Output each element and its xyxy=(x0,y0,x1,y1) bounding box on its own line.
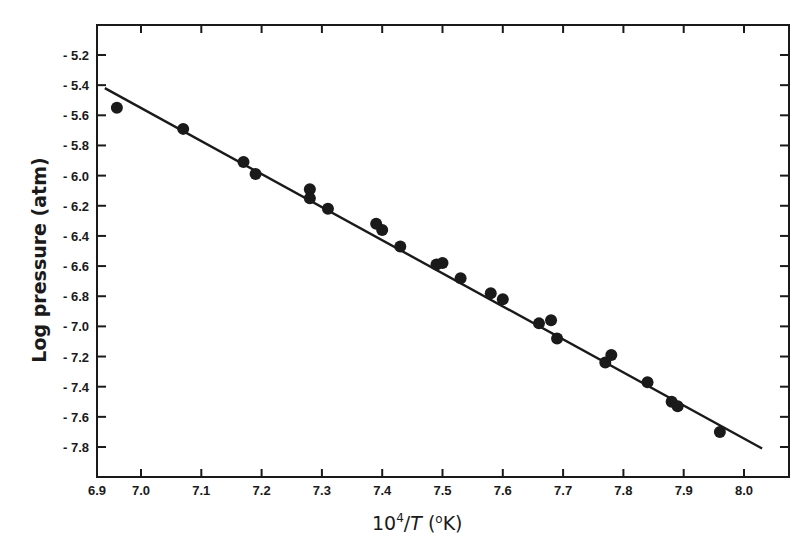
chart-figure: 6.97.07.17.27.37.47.57.67.77.87.98.0 - 5… xyxy=(0,0,812,550)
x-tick-label: 7.5 xyxy=(433,483,451,498)
data-point xyxy=(177,123,189,135)
x-tick-label: 6.9 xyxy=(88,483,106,498)
x-tick-label: 7.7 xyxy=(554,483,572,498)
data-point xyxy=(111,102,123,114)
data-point xyxy=(322,203,334,215)
x-tick-label: 7.6 xyxy=(494,483,512,498)
data-point xyxy=(376,224,388,236)
x-title-base: 10 xyxy=(372,512,396,534)
y-tick-label: - 7.8 xyxy=(63,440,89,455)
y-tick-label: - 6.8 xyxy=(63,289,89,304)
x-tick-label: 7.2 xyxy=(253,483,271,498)
data-point xyxy=(437,257,449,269)
y-tick-label: - 6.4 xyxy=(63,229,90,244)
axes-box xyxy=(97,25,789,477)
data-point xyxy=(250,168,262,180)
y-axis-ticks: - 5.2- 5.4- 5.6- 5.8- 6.0- 6.2- 6.4- 6.6… xyxy=(63,48,789,455)
data-point xyxy=(605,349,617,361)
x-tick-label: 8.0 xyxy=(735,483,753,498)
y-tick-label: - 7.0 xyxy=(63,319,89,334)
y-tick-label: - 5.2 xyxy=(63,48,89,63)
data-point xyxy=(304,192,316,204)
y-tick-label: - 7.4 xyxy=(63,380,90,395)
data-point xyxy=(485,287,497,299)
x-tick-label: 7.1 xyxy=(192,483,210,498)
plot-frame xyxy=(97,25,789,477)
data-point xyxy=(672,400,684,412)
data-point xyxy=(642,376,654,388)
x-title-sup: 4 xyxy=(396,511,404,525)
x-title-degree: o xyxy=(435,512,442,526)
x-title-unit: K) xyxy=(443,512,463,534)
data-point xyxy=(533,317,545,329)
data-points xyxy=(111,102,726,438)
y-tick-label: - 5.4 xyxy=(63,78,90,93)
x-tick-label: 7.4 xyxy=(373,483,392,498)
x-tick-label: 7.3 xyxy=(313,483,331,498)
y-tick-label: - 7.2 xyxy=(63,350,89,365)
data-point xyxy=(238,156,250,168)
x-tick-label: 7.8 xyxy=(614,483,632,498)
data-point xyxy=(545,314,557,326)
x-tick-label: 7.0 xyxy=(132,483,150,498)
data-point xyxy=(714,426,726,438)
y-tick-label: - 6.2 xyxy=(63,199,89,214)
data-point xyxy=(497,293,509,305)
y-tick-label: - 6.6 xyxy=(63,259,89,274)
x-axis-title: 104/T (oK) xyxy=(372,511,463,534)
y-axis-title-text: Log pressure (atm) xyxy=(28,157,50,362)
x-tick-label: 7.9 xyxy=(675,483,693,498)
x-title-unit-open: ( xyxy=(422,512,435,534)
data-point xyxy=(394,240,406,252)
y-tick-label: - 6.0 xyxy=(63,169,89,184)
data-point xyxy=(455,272,467,284)
data-point xyxy=(551,332,563,344)
svg-text:104/T (oK): 104/T (oK) xyxy=(372,511,463,534)
y-axis-title: Log pressure (atm) xyxy=(28,157,50,362)
y-tick-label: - 5.8 xyxy=(63,138,89,153)
y-tick-label: - 5.6 xyxy=(63,108,89,123)
y-tick-label: - 7.6 xyxy=(63,410,89,425)
